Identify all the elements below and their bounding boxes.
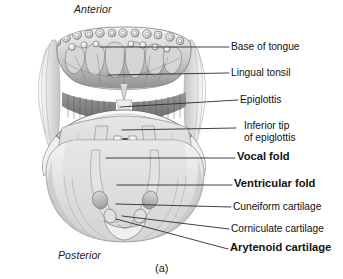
orientation-label-posterior: Posterior (58, 249, 101, 261)
orientation-label-anterior: Anterior (74, 3, 112, 15)
callout-label-arytenoid-cartilage: Arytenoid cartilage (230, 242, 331, 254)
callout-label-epiglottis: Epiglottis (240, 94, 281, 106)
callout-label-ventricular-fold: Ventricular fold (234, 178, 315, 190)
callout-label-corniculate-cartilage: Corniculate cartilage (231, 223, 324, 235)
base-of-tongue-region (53, 27, 192, 100)
anatomy-figure: Anterior Posterior Base of tongue Lingua… (0, 0, 343, 279)
callout-label-inferior-tip-of-epiglottis: Inferior tip of epiglottis (244, 120, 296, 144)
callout-line-inferior-tip-1: Inferior tip (244, 120, 296, 132)
callout-label-lingual-tonsil: Lingual tonsil (231, 67, 290, 79)
callout-label-vocal-fold: Vocal fold (237, 151, 290, 163)
callout-label-base-of-tongue: Base of tongue (231, 41, 300, 53)
figure-caption: (a) (155, 262, 168, 274)
posterior-larynx-region (38, 140, 212, 244)
callout-label-cuneiform-cartilage: Cuneiform cartilage (233, 201, 321, 213)
callout-line-inferior-tip-2: of epiglottis (244, 132, 296, 144)
